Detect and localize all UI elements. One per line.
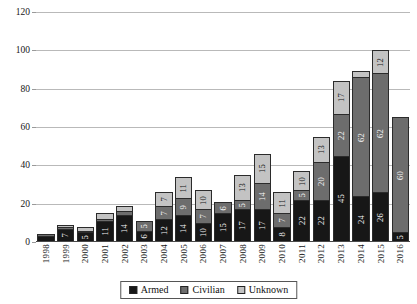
bar-column[interactable]: 615: [213, 12, 233, 242]
x-tick-label: 2000: [80, 244, 90, 263]
legend-item-unknown[interactable]: Unknown: [237, 284, 288, 295]
bar-segment-unknown[interactable]: 11: [175, 177, 192, 198]
bar-stack: 10522: [293, 171, 310, 242]
bar-segment-armed[interactable]: 22: [293, 200, 310, 242]
bar-segment-armed[interactable]: 17: [234, 209, 251, 242]
bar-segment-armed[interactable]: 14: [175, 215, 192, 242]
x-tick-label: 2003: [139, 244, 149, 263]
bar-segment-armed[interactable]: 10: [195, 223, 212, 242]
bar-segment-civilian[interactable]: 6: [214, 202, 231, 214]
bar-segment-civilian[interactable]: 7: [273, 213, 290, 226]
bar-value-label: 60: [396, 171, 405, 180]
bar-segment-unknown[interactable]: 15: [254, 154, 271, 183]
x-tick-cell: 2010: [272, 244, 292, 278]
bar-segment-armed[interactable]: 8: [273, 227, 290, 242]
bar-column[interactable]: 56: [134, 12, 154, 242]
bar-segment-unknown[interactable]: 17: [333, 81, 350, 114]
bar-segment-armed[interactable]: 14: [116, 215, 133, 242]
bar-stack: 1178: [273, 192, 290, 242]
bar-segment-civilian[interactable]: 9: [175, 198, 192, 215]
bar-column[interactable]: 13: [36, 12, 56, 242]
bar-column[interactable]: 132022: [312, 12, 332, 242]
bar-column[interactable]: 36224: [351, 12, 371, 242]
bar-value-label: 11: [179, 184, 188, 193]
bar-value-label: 24: [357, 215, 366, 224]
bar-segment-unknown[interactable]: 13: [234, 175, 251, 200]
bar-value-label: 5: [81, 235, 90, 239]
bar-segment-civilian[interactable]: 20: [313, 162, 330, 200]
bar-segment-armed[interactable]: 26: [372, 192, 389, 242]
bar-column[interactable]: 605: [390, 12, 410, 242]
x-tick-cell: 2002: [115, 244, 135, 278]
bar-value-label: 7: [278, 218, 287, 222]
bar-value-label: 5: [140, 224, 149, 228]
bar-column[interactable]: 10710: [194, 12, 214, 242]
x-tick-label: 2010: [277, 244, 287, 263]
x-axis-labels: 1998199920002001200220032004200520062007…: [36, 244, 410, 278]
bar-stack: 3111: [96, 213, 113, 242]
bar-segment-unknown[interactable]: 11: [273, 192, 290, 213]
bar-segment-civilian[interactable]: 5: [293, 190, 310, 200]
bar-segment-civilian[interactable]: 22: [333, 114, 350, 156]
bar-value-label: 5: [238, 203, 247, 207]
x-axis-line: [36, 241, 410, 242]
bar-column[interactable]: 7712: [154, 12, 174, 242]
bar-segment-civilian[interactable]: 60: [392, 117, 409, 232]
bar-value-label: 62: [376, 129, 385, 138]
bar-column[interactable]: 13517: [233, 12, 253, 242]
bar-value-label: 22: [298, 216, 307, 225]
legend-item-civilian[interactable]: Civilian: [181, 284, 225, 295]
bar-value-label: 10: [199, 228, 208, 237]
bar-column[interactable]: 126226: [371, 12, 391, 242]
bar-column[interactable]: 1178: [272, 12, 292, 242]
bar-segment-armed[interactable]: 45: [333, 156, 350, 242]
x-tick-label: 2006: [198, 244, 208, 263]
bar-segment-unknown[interactable]: 12: [372, 50, 389, 73]
legend-item-armed[interactable]: Armed: [129, 284, 169, 295]
bar-stack: 605: [392, 117, 409, 242]
bar-value-label: 17: [258, 221, 267, 230]
bar-segment-armed[interactable]: 24: [352, 196, 369, 242]
bar-column[interactable]: 151417: [253, 12, 273, 242]
bar-segment-civilian[interactable]: 62: [372, 73, 389, 192]
x-tick-cell: 2008: [233, 244, 253, 278]
bar-segment-civilian[interactable]: 5: [136, 221, 153, 231]
chart-legend: ArmedCivilianUnknown: [120, 281, 297, 299]
bar-segment-civilian[interactable]: 7: [195, 209, 212, 222]
bar-column[interactable]: 10522: [292, 12, 312, 242]
bar-segment-unknown[interactable]: 7: [155, 192, 172, 205]
y-tick-mark: [32, 242, 36, 243]
bar-stack: 10710: [195, 190, 212, 242]
x-tick-cell: 2000: [75, 244, 95, 278]
bar-segment-armed[interactable]: 22: [313, 200, 330, 242]
bar-segment-unknown[interactable]: 10: [293, 171, 310, 190]
bar-segment-armed[interactable]: 17: [254, 209, 271, 242]
x-tick-cell: 2015: [371, 244, 391, 278]
bar-segment-armed[interactable]: 7: [57, 229, 74, 242]
bar-column[interactable]: 11914: [174, 12, 194, 242]
bar-segment-armed[interactable]: 15: [214, 213, 231, 242]
x-tick-label: 2002: [120, 244, 130, 263]
bar-column[interactable]: 172245: [331, 12, 351, 242]
x-tick-cell: 2011: [292, 244, 312, 278]
bar-segment-civilian[interactable]: 5: [234, 200, 251, 210]
bar-column[interactable]: 117: [56, 12, 76, 242]
bar-value-label: 5: [298, 193, 307, 197]
bar-segment-armed[interactable]: 11: [96, 221, 113, 242]
bar-value-label: 7: [160, 197, 169, 201]
bar-segment-civilian[interactable]: 62: [352, 77, 369, 196]
bar-segment-civilian[interactable]: 7: [155, 206, 172, 219]
bar-column[interactable]: 3214: [115, 12, 135, 242]
x-tick-cell: 2014: [351, 244, 371, 278]
unknown-swatch-icon: [237, 286, 245, 294]
bar-value-label: 7: [61, 233, 70, 237]
bar-segment-armed[interactable]: 12: [155, 219, 172, 242]
bar-segment-civilian[interactable]: 14: [254, 183, 271, 210]
bar-value-label: 15: [258, 164, 267, 173]
y-tick-label: 60: [21, 122, 31, 132]
bar-column[interactable]: 3111: [95, 12, 115, 242]
bar-value-label: 17: [238, 221, 247, 230]
bar-segment-unknown[interactable]: 10: [195, 190, 212, 209]
bar-segment-unknown[interactable]: 13: [313, 137, 330, 162]
bar-column[interactable]: 215: [75, 12, 95, 242]
